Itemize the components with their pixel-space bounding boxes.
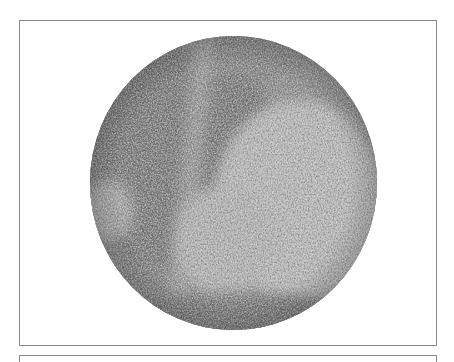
next-panel-partial xyxy=(19,355,437,362)
scan-graphic xyxy=(90,36,377,330)
figure-page xyxy=(0,0,454,362)
circular-scan-image xyxy=(90,36,377,330)
